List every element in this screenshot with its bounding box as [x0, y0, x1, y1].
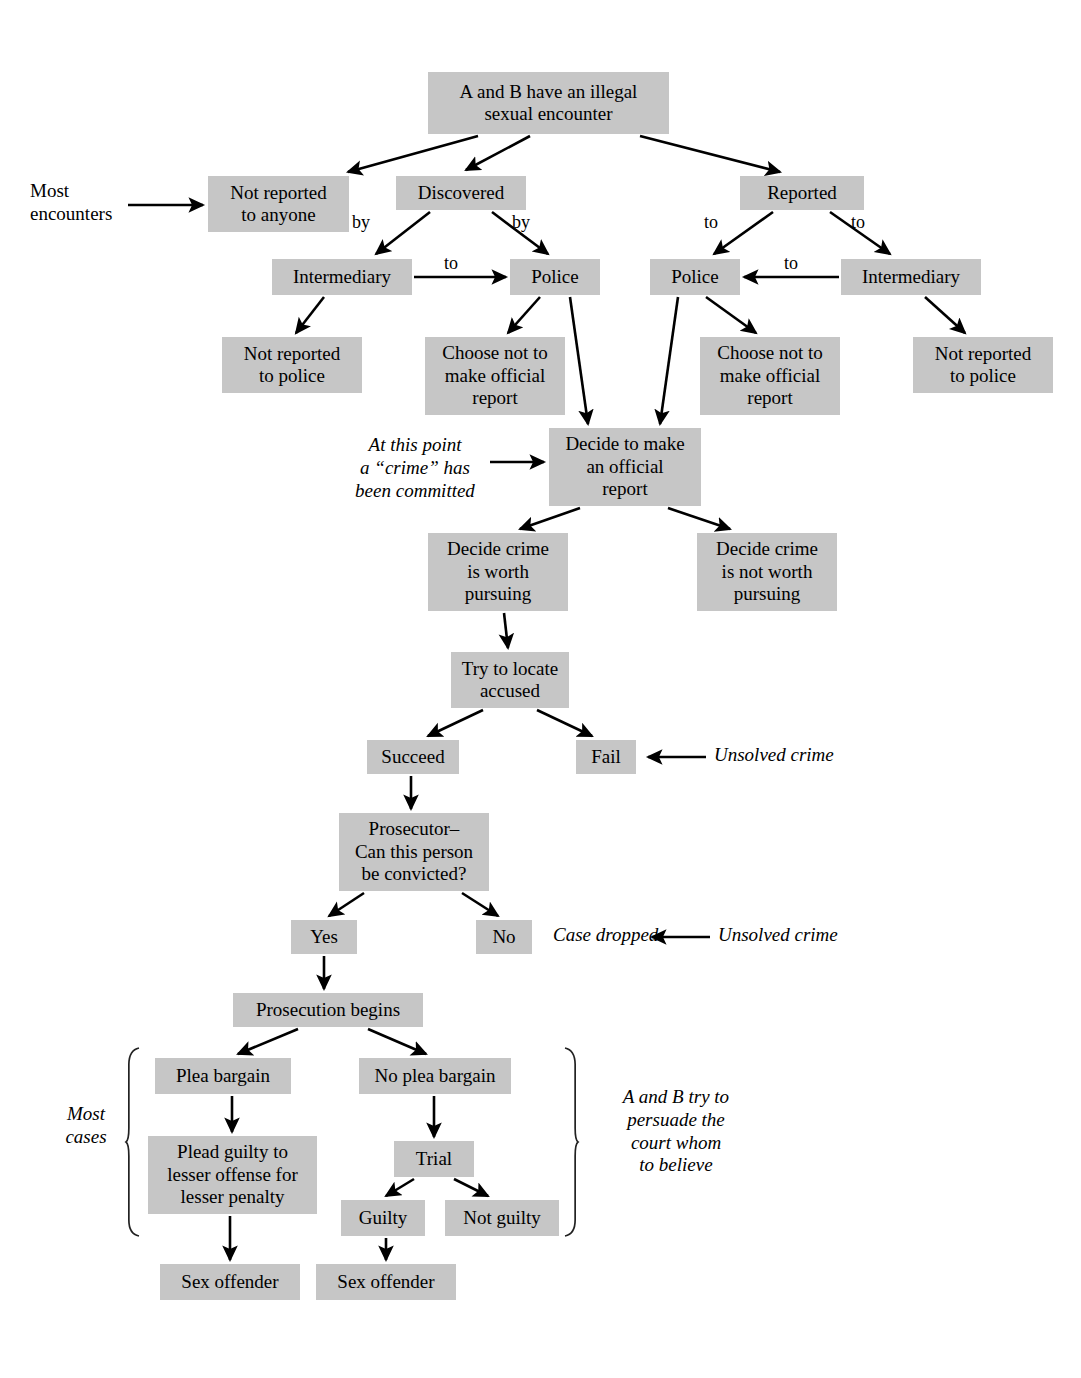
flow-node: Plead guilty to lesser offense for lesse… [148, 1136, 317, 1214]
flow-edge [462, 893, 498, 916]
annotation-text: Most cases [48, 1103, 124, 1149]
flow-node: Choose not to make official report [700, 337, 840, 415]
flow-edge [238, 1029, 298, 1054]
flow-node: Plea bargain [155, 1058, 291, 1094]
edge-label: to [704, 212, 718, 233]
flow-edge [368, 1029, 426, 1054]
edge-label: to [784, 253, 798, 274]
annotation-text: At this point a “crime” has been committ… [335, 434, 495, 502]
flow-node: Not reported to police [913, 337, 1053, 393]
flow-node: Police [650, 259, 740, 295]
flow-node: Prosecution begins [233, 993, 423, 1027]
flow-node: Fail [576, 740, 636, 774]
flow-node: Reported [740, 176, 864, 210]
flow-edge [348, 136, 478, 172]
flow-edge [466, 136, 530, 170]
annotation-text: Unsolved crime [714, 744, 874, 767]
flow-node: A and B have an illegal sexual encounter [428, 72, 669, 134]
flow-node: Not reported to police [222, 337, 362, 393]
flow-node: Intermediary [841, 259, 981, 295]
flow-node: Not reported to anyone [208, 176, 349, 232]
flowchart-canvas: A and B have an illegal sexual encounter… [0, 0, 1081, 1378]
curly-brace [565, 1048, 578, 1236]
flow-edge [925, 297, 965, 333]
flow-node: Yes [291, 920, 357, 954]
flow-edge [329, 893, 364, 916]
flow-edge [520, 508, 580, 529]
flow-node: Discovered [396, 176, 526, 210]
flow-edge [454, 1179, 488, 1196]
flow-edge [706, 297, 756, 333]
flow-edge [660, 297, 678, 424]
flow-edge [376, 212, 430, 254]
edge-label: to [444, 253, 458, 274]
flow-node: Guilty [341, 1200, 425, 1236]
flow-node: Sex offender [316, 1264, 456, 1300]
flow-edge [537, 710, 592, 736]
flow-node: Decide crime is not worth pursuing [697, 533, 837, 611]
flow-node: Police [510, 259, 600, 295]
edge-label: to [851, 212, 865, 233]
annotation-text: A and B try to persuade the court whom t… [591, 1086, 761, 1177]
flow-edge [640, 136, 780, 172]
flow-node: No plea bargain [359, 1058, 511, 1094]
annotation-text: Case dropped [553, 924, 683, 947]
flow-edge [714, 212, 773, 254]
flow-node: Prosecutor– Can this person be convicted… [339, 813, 489, 891]
flow-node: Succeed [367, 740, 459, 774]
edge-label: by [512, 212, 530, 233]
annotation-text: Most encounters [30, 180, 160, 226]
flow-node: Decide crime is worth pursuing [428, 533, 568, 611]
annotation-text: Unsolved crime [718, 924, 878, 947]
flow-edge [508, 297, 540, 333]
flow-node: Try to locate accused [451, 652, 569, 708]
flow-node: Decide to make an official report [549, 428, 701, 506]
flow-edge [428, 710, 483, 736]
flow-edge [296, 297, 324, 333]
flow-node: Intermediary [272, 259, 412, 295]
flow-node: Choose not to make official report [425, 337, 565, 415]
edge-label: by [352, 212, 370, 233]
flow-edge [386, 1179, 414, 1196]
flow-node: Not guilty [445, 1200, 559, 1236]
flow-edge [504, 613, 508, 648]
flow-node: Trial [394, 1141, 474, 1177]
flow-node: No [476, 920, 532, 954]
curly-brace [126, 1048, 139, 1236]
flow-node: Sex offender [160, 1264, 300, 1300]
flow-edge [570, 297, 588, 424]
flow-edge [668, 508, 730, 529]
